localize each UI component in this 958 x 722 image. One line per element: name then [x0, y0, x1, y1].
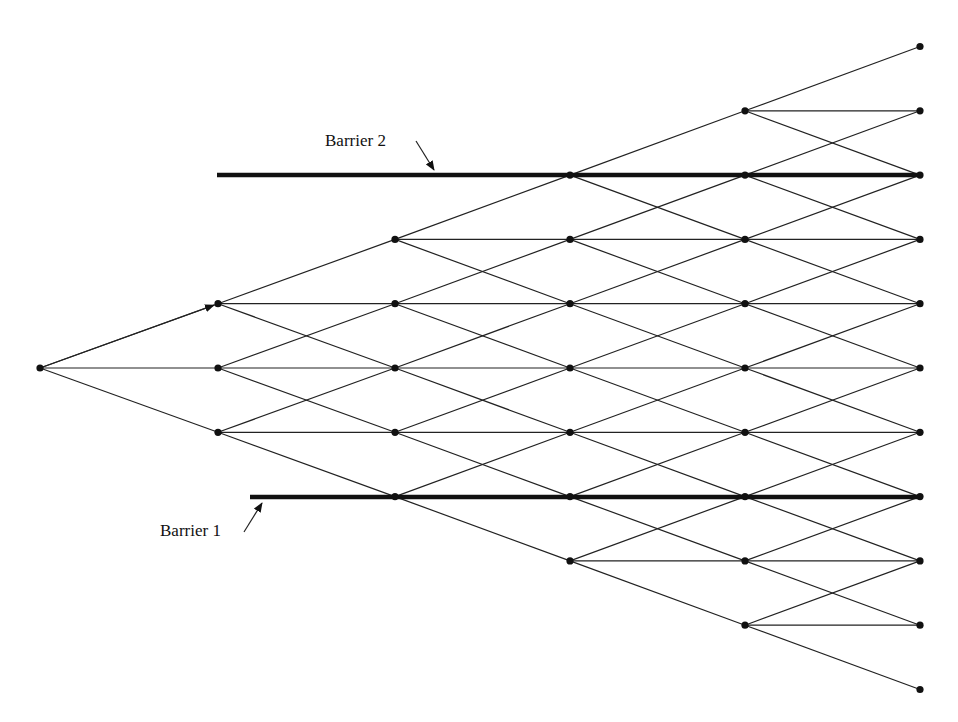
tree-node	[916, 686, 923, 693]
barrier-lines	[217, 175, 920, 497]
tree-node	[916, 364, 923, 371]
tree-node	[214, 364, 221, 371]
tree-node	[741, 107, 748, 114]
tree-node	[916, 43, 923, 50]
tree-edge	[570, 111, 745, 175]
tree-node	[566, 493, 573, 500]
barrier-2-label: Barrier 2	[325, 131, 386, 151]
tree-edge	[395, 175, 570, 239]
tree-node	[391, 236, 398, 243]
tree-node	[916, 622, 923, 629]
label-arrows	[244, 141, 434, 532]
tree-node	[36, 364, 43, 371]
tree-edge	[395, 497, 570, 561]
tree-node	[741, 622, 748, 629]
tree-node	[214, 429, 221, 436]
tree-edge	[218, 239, 395, 303]
tree-node	[741, 429, 748, 436]
barrier-2-pointer-arrow-icon	[416, 141, 434, 170]
tree-node	[391, 300, 398, 307]
tree-node	[916, 300, 923, 307]
tree-node	[566, 236, 573, 243]
tree-node	[916, 429, 923, 436]
barrier-1-label: Barrier 1	[160, 521, 221, 541]
tree-node	[916, 107, 923, 114]
tree-node	[741, 364, 748, 371]
tree-node	[391, 364, 398, 371]
tree-node	[741, 557, 748, 564]
tree-node	[741, 493, 748, 500]
tree-node	[916, 557, 923, 564]
tree-edges	[40, 47, 920, 690]
tree-edge	[570, 561, 745, 625]
tree-edge	[745, 47, 920, 111]
tree-edge	[218, 432, 395, 496]
tree-node	[916, 236, 923, 243]
tree-node	[566, 300, 573, 307]
tree-node	[214, 300, 221, 307]
tree-node	[391, 429, 398, 436]
tree-edge	[40, 368, 218, 432]
tree-node	[741, 300, 748, 307]
tree-node	[566, 172, 573, 179]
tree-node	[391, 493, 398, 500]
tree-node	[566, 429, 573, 436]
root-up-arrow	[40, 305, 214, 368]
tree-node	[566, 557, 573, 564]
tree-node	[741, 236, 748, 243]
trinomial-tree-diagram	[0, 0, 958, 722]
tree-node	[916, 493, 923, 500]
tree-edge	[745, 625, 920, 689]
tree-node	[741, 172, 748, 179]
tree-node	[566, 364, 573, 371]
barrier-1-pointer-arrow-icon	[244, 503, 262, 532]
tree-node	[916, 172, 923, 179]
